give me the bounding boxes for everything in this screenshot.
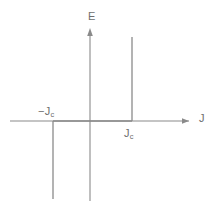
plot-canvas <box>0 0 217 214</box>
negative-critical-current-subscript: c <box>51 110 55 119</box>
y-axis-arrowhead <box>87 28 93 36</box>
x-axis-arrowhead <box>182 118 189 124</box>
y-axis-label: E <box>88 11 96 22</box>
y-axis-E <box>87 28 93 201</box>
positive-critical-current-subscript: c <box>130 132 134 141</box>
positive-critical-current-label: Jc <box>124 128 134 141</box>
e-j-characteristic-figure: E J −Jc Jc <box>0 0 217 214</box>
negative-critical-current-label: −Jc <box>38 106 54 119</box>
negative-critical-current-symbol: −J <box>38 105 51 117</box>
x-axis-label: J <box>199 113 205 124</box>
